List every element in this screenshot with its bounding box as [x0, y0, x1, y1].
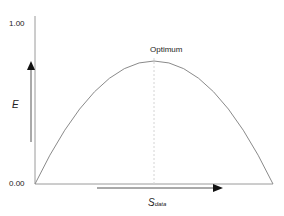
- optimum-label: Optimum: [150, 45, 183, 54]
- chart-canvas: 1.00 0.00 Optimum E Sdata: [0, 0, 284, 216]
- x-axis-label: Sdata: [148, 197, 167, 208]
- x-axis-label-subscript: data: [155, 201, 167, 207]
- y-axis-label: E: [12, 99, 19, 110]
- up-arrow-icon: [27, 61, 35, 70]
- y-tick-bottom: 0.00: [9, 179, 25, 188]
- y-tick-top: 1.00: [9, 19, 25, 28]
- right-arrow-icon: [213, 184, 223, 192]
